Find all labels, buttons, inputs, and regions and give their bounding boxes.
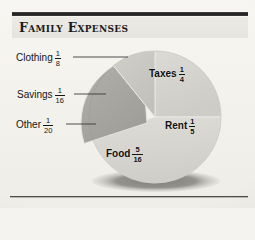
fraction-numerator: 1: [43, 117, 53, 125]
pie-label-taxes-name: Taxes: [149, 68, 177, 79]
pie-fraction-taxes: 14: [179, 66, 185, 84]
fraction-denominator: 16: [55, 97, 65, 105]
callout-label-other: Other120: [16, 117, 53, 135]
fraction-numerator: 5: [132, 146, 142, 154]
fraction-denominator: 5: [189, 128, 195, 136]
fraction-denominator: 16: [132, 156, 142, 164]
fraction-denominator: 20: [43, 127, 53, 135]
callout-fraction-other: 120: [43, 117, 53, 135]
callout-label-savings: Savings116: [17, 87, 65, 105]
callout-fraction-clothing: 18: [55, 50, 61, 68]
callout-label-clothing-name: Clothing: [16, 52, 53, 63]
fraction-numerator: 1: [179, 66, 185, 74]
pie-fraction-food: 516: [132, 146, 142, 164]
fraction-numerator: 1: [189, 118, 195, 126]
fraction-numerator: 1: [55, 50, 61, 58]
callout-fraction-savings: 116: [55, 87, 65, 105]
pie-label-rent: Rent15: [165, 118, 195, 136]
pie-label-food: Food516: [106, 146, 143, 164]
pie-label-taxes: Taxes14: [149, 66, 185, 84]
pie-slice-taxes[interactable]: [155, 51, 221, 117]
callout-label-other-name: Other: [16, 119, 41, 130]
callout-label-clothing: Clothing18: [16, 50, 61, 68]
fraction-denominator: 8: [55, 60, 61, 68]
pie-label-rent-name: Rent: [165, 120, 187, 131]
pie-fraction-rent: 15: [189, 118, 195, 136]
fraction-numerator: 1: [55, 87, 65, 95]
pie-label-food-name: Food: [106, 148, 130, 159]
callout-label-savings-name: Savings: [17, 89, 53, 100]
fraction-denominator: 4: [179, 76, 185, 84]
bottom-rule-highlight: [10, 197, 248, 198]
